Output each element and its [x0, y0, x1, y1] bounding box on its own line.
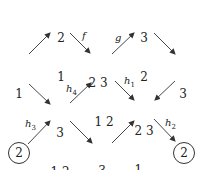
edge-label-h3: h3: [25, 119, 36, 133]
node-mid-left: 3 1 2: [50, 101, 69, 170]
node-bottom: 3 1: [94, 139, 109, 170]
arrow-topright-to-right: [154, 33, 175, 54]
node-row: 3: [175, 88, 190, 101]
node-row: 2: [136, 71, 151, 84]
node-top-right: 3 2: [136, 6, 151, 110]
circled-node-right: 2: [173, 142, 195, 164]
node-row: 3: [50, 127, 69, 140]
node-row: 2: [53, 32, 68, 45]
arrow-right-to-midright: [155, 81, 175, 100]
tableau-diagram: 1 2 1 2 3 1 2 3 2 3 3 1 2 2 3 1 3 1 2 2 …: [0, 0, 205, 170]
node-row: 1 2: [50, 166, 69, 170]
arrow-f: [70, 33, 90, 53]
circled-node-left: 2: [8, 142, 30, 164]
node-right: 3: [175, 62, 190, 127]
edge-label-h1: h1: [124, 76, 135, 90]
node-row: 3: [94, 165, 109, 170]
node-row: 2 3: [88, 77, 113, 90]
arrow-bottom-to-midright: [112, 121, 134, 143]
edge-label-g: g: [115, 33, 121, 43]
node-mid-right: 2 3 1: [134, 99, 153, 170]
arrow-left-to-midleft: [29, 84, 50, 104]
node-row: 1: [134, 164, 153, 170]
edge-label-f: f: [82, 31, 86, 41]
node-row: 1: [11, 88, 26, 101]
edge-label-h2: h2: [165, 118, 176, 132]
node-row: 1 2: [88, 116, 113, 129]
node-row: 3: [136, 32, 151, 45]
edge-label-h4: h4: [66, 84, 77, 98]
arrow-left-to-topleft: [29, 33, 50, 54]
node-row: 2 3: [134, 125, 153, 138]
